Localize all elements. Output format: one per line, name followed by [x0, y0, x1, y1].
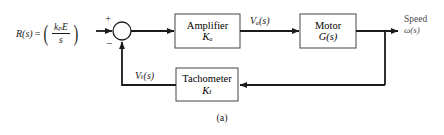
figure-canvas: R(s) = ( kₚE s ) + − Amplifier Kₐ Motor …	[0, 0, 444, 135]
figure-caption: (a)	[0, 112, 444, 123]
paren-close: )	[73, 23, 78, 44]
fraction-numerator: kₚE	[52, 22, 70, 33]
input-fraction: kₚE s	[52, 22, 70, 45]
motor-block: Motor G(s)	[300, 14, 356, 48]
amplifier-gain: Kₐ	[202, 31, 212, 42]
motor-gain: G(s)	[319, 31, 338, 42]
amplifier-block: Amplifier Kₐ	[175, 14, 240, 48]
paren-open: (	[44, 23, 49, 44]
feedback-signal-label: Vₜ(s)	[135, 70, 154, 81]
output-label: Speed	[404, 14, 427, 24]
output-variable: ω(s)	[404, 26, 420, 36]
fraction-denominator: s	[57, 35, 65, 46]
motor-title: Motor	[315, 20, 341, 31]
summing-minus-sign: −	[106, 37, 112, 49]
tachometer-block: Tachometer Kₜ	[176, 68, 238, 101]
tachometer-gain: Kₜ	[202, 84, 212, 96]
input-name: R(s)	[16, 28, 33, 39]
summing-junction	[113, 22, 131, 40]
amplifier-output-signal-label: Vₐ(s)	[250, 15, 270, 26]
input-signal-label: R(s) = ( kₚE s )	[16, 22, 79, 45]
tachometer-title: Tachometer	[182, 73, 231, 84]
input-equals: =	[35, 28, 41, 39]
summing-plus-sign: +	[105, 12, 111, 24]
amplifier-title: Amplifier	[187, 20, 228, 31]
